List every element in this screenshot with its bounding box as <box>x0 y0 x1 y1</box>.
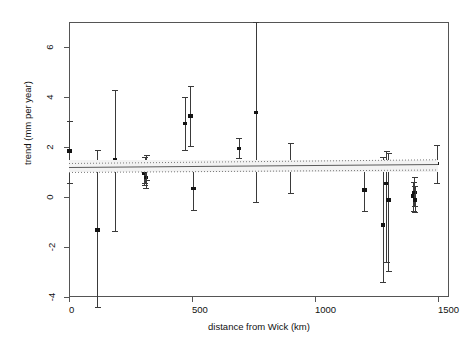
error-bar-cap-lower <box>95 307 101 308</box>
y-tick-label: 2 <box>44 144 55 149</box>
error-bar-cap-upper <box>95 150 101 151</box>
data-point-marker <box>191 187 196 191</box>
data-point-marker <box>237 147 242 151</box>
data-point-marker <box>362 188 367 192</box>
data-point-marker <box>413 198 418 202</box>
error-bar-cap-lower <box>188 146 194 147</box>
error-bar-cap-lower <box>362 211 368 212</box>
x-tick-mark <box>438 297 439 302</box>
data-point-marker <box>386 198 391 202</box>
error-bar-cap-lower <box>412 212 418 213</box>
y-tick-label: -2 <box>46 243 57 251</box>
error-bar-cap-lower <box>144 180 150 181</box>
error-bar-cap-upper <box>236 138 242 139</box>
error-bar-cap-upper <box>67 121 73 122</box>
x-tick-mark <box>192 297 193 302</box>
x-axis-title: distance from Wick (km) <box>208 321 310 332</box>
y-tick-mark <box>64 97 69 98</box>
y-tick-label: -4 <box>46 293 57 301</box>
data-point-marker <box>183 122 188 126</box>
y-tick-label: 4 <box>44 94 55 99</box>
error-bar <box>383 157 384 282</box>
error-bar-cap-lower <box>380 282 386 283</box>
error-bar-cap-upper <box>412 186 418 187</box>
data-point-marker <box>188 114 193 118</box>
error-bar-cap-lower <box>434 183 440 184</box>
y-axis-title: trend (mm per year) <box>22 81 33 165</box>
error-bar-cap-upper <box>144 155 150 156</box>
x-tick-label: 0 <box>69 304 74 315</box>
data-point-marker <box>381 223 386 227</box>
error-bar-cap-lower <box>288 193 294 194</box>
error-bar-cap-upper <box>253 22 259 23</box>
error-bar-cap-upper <box>288 143 294 144</box>
x-tick-mark <box>315 297 316 302</box>
error-bar-cap-upper <box>112 90 118 91</box>
y-tick-mark <box>64 247 69 248</box>
scatter-plot-figure: 050010001500-4-20246 distance from Wick … <box>0 0 462 346</box>
error-bar-cap-lower <box>112 231 118 232</box>
error-bar-cap-lower <box>191 210 197 211</box>
data-point-marker <box>95 228 100 232</box>
error-bar-cap-lower <box>386 271 392 272</box>
error-bar-cap-upper <box>384 151 390 152</box>
data-point-marker <box>67 149 72 153</box>
x-tick-mark <box>69 297 70 302</box>
error-bar-cap-lower <box>253 202 259 203</box>
y-tick-label: 0 <box>44 194 55 199</box>
error-bar-cap-lower <box>143 188 149 189</box>
error-bar-cap-upper <box>434 145 440 146</box>
data-point-marker <box>254 111 259 115</box>
error-bar-cap-upper <box>188 86 194 87</box>
x-tick-label: 1000 <box>315 304 336 315</box>
error-bar-cap-lower <box>182 150 188 151</box>
error-bar-cap-upper <box>380 157 386 158</box>
y-tick-label: 6 <box>44 44 55 49</box>
error-bar-cap-upper <box>386 153 392 154</box>
error-bar-cap-upper <box>182 97 188 98</box>
y-tick-mark <box>64 47 69 48</box>
error-bar-cap-lower <box>67 183 73 184</box>
y-tick-mark <box>64 197 69 198</box>
y-tick-mark <box>64 297 69 298</box>
x-tick-label: 1500 <box>438 304 459 315</box>
error-bar-cap-upper <box>412 177 418 178</box>
x-tick-label: 500 <box>192 304 208 315</box>
